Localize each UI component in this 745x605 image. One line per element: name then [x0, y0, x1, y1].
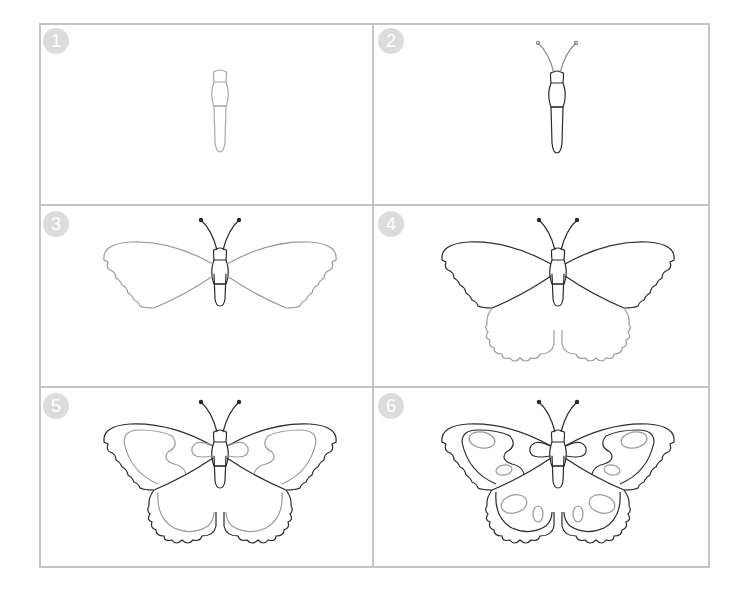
drawing-tutorial-sheet: 1 2 3 4 5 6 — [0, 0, 745, 605]
butterfly-drawings — [0, 0, 745, 605]
step-4-drawing — [442, 218, 674, 361]
step-5-drawing — [104, 400, 336, 543]
step-1-drawing — [212, 70, 229, 152]
step-3-drawing — [104, 218, 336, 308]
step-6-drawing — [442, 400, 674, 543]
step-2-drawing — [536, 41, 577, 153]
